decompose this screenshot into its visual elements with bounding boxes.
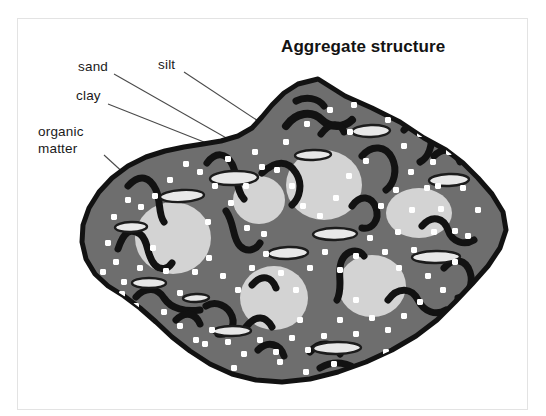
clay-particle <box>152 193 158 199</box>
clay-particle <box>225 156 231 162</box>
clay-particle <box>378 203 384 209</box>
aggregate-structure-diagram: Aggregate structure sandsiltclayorganicm… <box>0 0 546 416</box>
clay-particle <box>317 213 323 219</box>
silt-particle <box>352 124 390 137</box>
clay-particle <box>231 365 237 371</box>
clay-particle <box>393 187 399 193</box>
clay-particle <box>327 107 333 113</box>
clay-particle <box>274 167 280 173</box>
clay-particle <box>322 249 328 255</box>
clay-particle <box>395 229 401 235</box>
clay-particle <box>347 129 353 135</box>
silt-particle <box>213 326 251 337</box>
clay-particle <box>177 290 183 296</box>
label-silt: silt <box>158 57 175 72</box>
clay-particle <box>353 297 359 303</box>
clay-particle <box>161 309 167 315</box>
label-group: sandsiltclayorganicmatter <box>38 57 175 156</box>
clay-particle <box>244 225 250 231</box>
clay-particle <box>159 335 165 341</box>
clay-particle <box>177 323 183 329</box>
clay-particle <box>452 259 458 265</box>
silt-particle <box>295 149 331 160</box>
clay-particle <box>475 207 481 213</box>
clay-particle <box>113 259 119 265</box>
clay-particle <box>257 337 263 343</box>
clay-particle <box>205 219 211 225</box>
label-clay: clay <box>76 88 101 103</box>
clay-particle <box>385 117 391 123</box>
clay-particle <box>385 327 391 333</box>
clay-particle <box>202 341 208 347</box>
label-organic-matter: organicmatter <box>38 124 84 156</box>
clay-particle <box>249 265 255 271</box>
clay-particle <box>181 355 187 361</box>
clay-particle <box>278 270 284 276</box>
clay-particle <box>401 143 407 149</box>
clay-particle <box>138 204 144 210</box>
clay-particle <box>435 183 441 189</box>
clay-particle <box>150 245 156 251</box>
clay-particle <box>243 183 249 189</box>
clay-particle <box>197 169 203 175</box>
clay-particle <box>263 251 269 257</box>
clay-particle <box>368 89 374 95</box>
silt-particle <box>429 173 469 186</box>
clay-particle <box>163 268 169 274</box>
clay-particle <box>235 287 241 293</box>
clay-particle <box>431 229 437 235</box>
clay-particle <box>425 273 431 279</box>
clay-particle <box>137 265 143 271</box>
clay-particle <box>440 287 446 293</box>
clay-particle <box>297 317 303 323</box>
clay-particle <box>353 331 359 337</box>
clay-particle <box>252 149 258 155</box>
clay-particle <box>337 317 343 323</box>
clay-particle <box>241 351 247 357</box>
clay-particle <box>111 214 117 220</box>
clay-particle <box>408 169 414 175</box>
clay-particle <box>212 183 218 189</box>
clay-particle <box>100 269 106 275</box>
clay-particle <box>351 102 357 108</box>
clay-particle <box>261 231 267 237</box>
clay-particle <box>321 333 327 339</box>
clay-particle <box>393 103 399 109</box>
page-title: Aggregate structure <box>281 37 445 56</box>
clay-particle <box>300 203 306 209</box>
silt-particle <box>115 221 147 232</box>
clay-particle <box>367 235 373 241</box>
clay-particle <box>369 315 375 321</box>
clay-particle <box>228 200 234 206</box>
silt-particle <box>313 342 361 355</box>
clay-particle <box>346 173 352 179</box>
silt-particle <box>183 294 209 303</box>
clay-particle <box>167 177 173 183</box>
clay-particle <box>183 161 189 167</box>
clay-particle <box>417 299 423 305</box>
clay-particle <box>337 267 343 273</box>
clay-particle <box>333 195 339 201</box>
clay-particle <box>396 265 402 271</box>
clay-particle <box>430 159 436 165</box>
clay-particle <box>273 349 279 355</box>
clay-particle <box>307 265 313 271</box>
clay-particle <box>409 207 415 213</box>
silt-particle <box>132 278 166 288</box>
clay-particle <box>277 359 283 365</box>
clay-particle <box>259 164 265 170</box>
clay-particle <box>460 185 466 191</box>
clay-particle <box>304 121 310 127</box>
figure-page: Aggregate structure sandsiltclayorganicm… <box>0 0 546 416</box>
clay-particle <box>192 269 198 275</box>
silt-particle <box>313 228 357 241</box>
clay-particle <box>305 347 311 353</box>
label-line: organic <box>38 124 84 139</box>
clay-particle <box>438 206 444 212</box>
clay-particle <box>363 158 369 164</box>
clay-particle <box>121 279 127 285</box>
clay-particle <box>105 240 111 246</box>
clay-particle <box>193 337 199 343</box>
clay-particle <box>289 335 295 341</box>
clay-particle <box>424 185 430 191</box>
